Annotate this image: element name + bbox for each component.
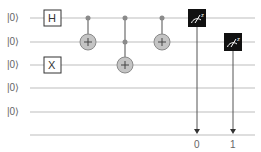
quantum-circuit: |0⟩ |0⟩ |0⟩ |0⟩ |0⟩ [0, 0, 261, 152]
classical-bit-0-label: 0 [194, 139, 200, 150]
h-gate-label: H [48, 12, 56, 24]
circuit-canvas: z z [0, 0, 261, 152]
control-dot [123, 16, 128, 21]
arrow-down-icon [230, 129, 236, 134]
measure-gate-1[interactable]: z [224, 33, 242, 51]
x-gate-label: X [48, 59, 55, 71]
measure-gate-0[interactable]: z [188, 9, 206, 27]
svg-text:z: z [201, 12, 204, 18]
classical-bit-1-label: 1 [230, 139, 236, 150]
svg-text:z: z [237, 36, 240, 42]
control-dot [86, 16, 91, 21]
toffoli-gate[interactable] [117, 16, 133, 74]
arrow-down-icon [194, 129, 200, 134]
cnot-gate-2[interactable] [154, 16, 170, 51]
control-dot [123, 40, 128, 45]
cnot-gate-1[interactable] [80, 16, 96, 51]
control-dot [160, 16, 165, 21]
